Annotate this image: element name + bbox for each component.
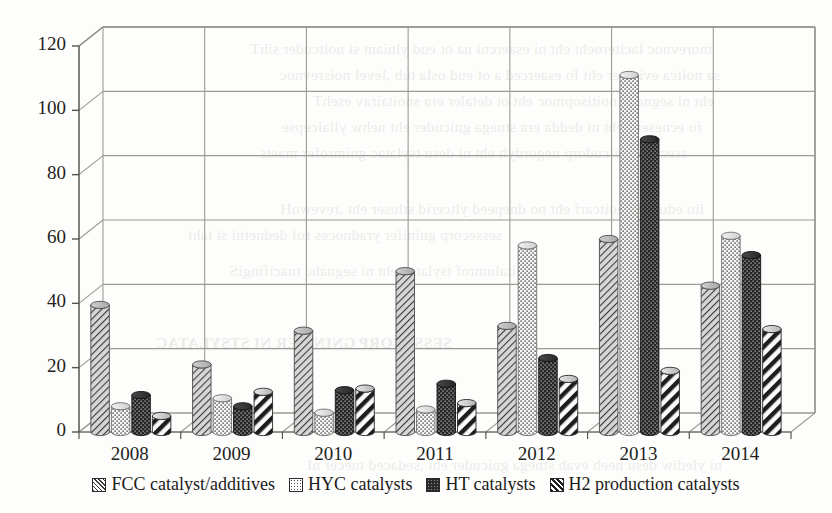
legend-item-ht[interactable]: HT catalysts [426, 474, 535, 495]
x-axis-tick-label: 2012 [486, 443, 588, 465]
bar [620, 71, 639, 435]
bar [111, 403, 130, 436]
axis-layer [72, 46, 791, 439]
bar [213, 395, 232, 436]
diagonal-hatch-icon [92, 478, 106, 492]
y-axis-tick-label: 0 [6, 419, 66, 441]
bar [335, 387, 354, 436]
x-axis-tick-label: 2011 [384, 443, 486, 465]
bar [539, 354, 558, 435]
bar [701, 282, 720, 436]
legend-label: HT catalysts [445, 474, 535, 495]
bar [356, 385, 375, 436]
bar [396, 268, 415, 436]
bar [498, 322, 517, 435]
bar [294, 327, 313, 436]
bar [91, 301, 110, 435]
y-axis-tick-label: 40 [6, 290, 66, 312]
bar [315, 409, 334, 436]
chart-canvas [0, 0, 832, 513]
y-axis-tick-label: 100 [6, 97, 66, 119]
bar [193, 361, 212, 436]
dark-dots-icon [426, 478, 440, 492]
bar [661, 367, 680, 435]
bar [763, 325, 782, 435]
x-axis-tick-label: 2014 [689, 443, 791, 465]
bar [132, 391, 151, 435]
bar [518, 242, 537, 436]
legend-label: HYC catalysts [308, 474, 412, 495]
bars-layer [91, 71, 781, 435]
bar [458, 399, 477, 435]
bar-chart: 020406080100120 200820092010201120122013… [0, 0, 832, 513]
light-dots-icon [289, 478, 303, 492]
x-axis-tick-label: 2010 [282, 443, 384, 465]
bar [254, 388, 273, 435]
legend-label: FCC catalyst/additives [111, 474, 275, 495]
y-axis-tick-label: 20 [6, 355, 66, 377]
bar [599, 235, 618, 435]
wide-diagonal-icon [550, 478, 564, 492]
legend-label: H2 production catalysts [569, 474, 740, 495]
y-axis-tick-label: 80 [6, 162, 66, 184]
bar [234, 403, 253, 436]
y-axis-tick-label: 60 [6, 226, 66, 248]
bar [417, 406, 436, 436]
legend-item-fcc[interactable]: FCC catalyst/additives [92, 474, 275, 495]
bar [722, 232, 741, 435]
y-axis-tick-label: 120 [6, 33, 66, 55]
x-axis-tick-label: 2013 [588, 443, 690, 465]
legend-item-h2[interactable]: H2 production catalysts [550, 474, 740, 495]
bar [437, 380, 456, 435]
legend-item-hyc[interactable]: HYC catalysts [289, 474, 412, 495]
x-axis-tick-label: 2008 [79, 443, 181, 465]
bar [152, 412, 171, 435]
chart-legend: FCC catalyst/additives HYC catalysts HT … [0, 474, 832, 495]
x-axis-tick-label: 2009 [181, 443, 283, 465]
bar [742, 251, 761, 435]
bar [559, 375, 578, 435]
bar [640, 136, 659, 436]
